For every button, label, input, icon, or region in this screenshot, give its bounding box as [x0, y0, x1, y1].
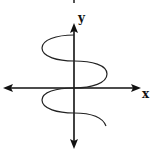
graph-svg	[0, 0, 153, 151]
stray-mark	[73, 0, 75, 3]
x-axis-label: x	[142, 88, 149, 100]
graph-figure: y x	[0, 0, 153, 151]
y-axis	[70, 23, 78, 149]
y-axis-label: y	[78, 12, 85, 24]
